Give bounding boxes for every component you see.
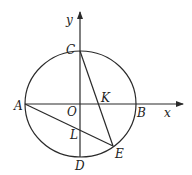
point-label-A: A [13, 99, 23, 113]
point-label-K: K [100, 91, 111, 105]
point-label-D: D [74, 159, 85, 173]
point-label-B: B [136, 106, 146, 120]
point-label-L: L [69, 128, 78, 142]
geometry-diagram: y x C A O K B L E D [0, 0, 192, 175]
point-label-O: O [67, 105, 77, 119]
x-axis-label: x [164, 106, 171, 120]
point-label-E: E [114, 147, 124, 161]
y-axis-label: y [65, 13, 73, 27]
point-label-C: C [66, 43, 75, 57]
